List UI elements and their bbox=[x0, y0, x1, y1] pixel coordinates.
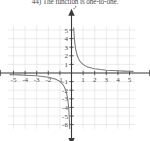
x-tick-label: 1 bbox=[81, 76, 85, 84]
x-axis-left-arrow bbox=[0, 70, 1, 76]
coordinate-graph-figure: -5-4-3-2-112345 54321-1-2-3-4-5-6 x y bbox=[0, 6, 150, 141]
worksheet-page: 44) The function is one-to-one. -5-4-3-2… bbox=[0, 0, 150, 141]
x-tick-label: 2 bbox=[93, 76, 97, 84]
x-tick-label: -3 bbox=[34, 76, 40, 84]
y-tick-label: 3 bbox=[64, 44, 68, 52]
curve-branch-negative bbox=[10, 75, 70, 129]
y-tick-label: 1 bbox=[64, 61, 68, 69]
x-tick-label: -5 bbox=[11, 76, 17, 84]
coordinate-plane-svg: -5-4-3-2-112345 54321-1-2-3-4-5-6 x y bbox=[0, 6, 150, 141]
y-tick-label: 5 bbox=[64, 27, 68, 35]
x-axis-right-arrow bbox=[149, 70, 150, 76]
y-axis-label: y bbox=[73, 6, 78, 9]
x-tick-label: 3 bbox=[105, 76, 109, 84]
y-axis-up-arrow bbox=[68, 9, 74, 16]
y-tick-label: -4 bbox=[62, 104, 68, 112]
y-axis-down-arrow bbox=[68, 138, 74, 141]
y-tick-label: 2 bbox=[64, 52, 68, 60]
y-axis-tick-labels: 54321-1-2-3-4-5-6 bbox=[62, 27, 68, 130]
curve-branch-positive bbox=[74, 28, 133, 72]
x-tick-label: -4 bbox=[22, 76, 28, 84]
x-tick-label: 5 bbox=[128, 76, 132, 84]
y-tick-label: 4 bbox=[64, 35, 68, 43]
x-tick-label: 4 bbox=[116, 76, 120, 84]
y-tick-label: -5 bbox=[62, 113, 68, 121]
y-tick-label: -6 bbox=[62, 121, 68, 129]
